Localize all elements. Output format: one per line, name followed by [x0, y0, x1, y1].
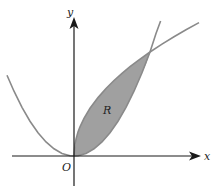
diagram-canvas: y x O R — [0, 0, 214, 193]
x-axis-label: x — [204, 150, 211, 163]
region-label: R — [102, 104, 111, 117]
y-axis-label: y — [66, 6, 74, 19]
origin-label: O — [62, 161, 71, 174]
region-r-fill — [74, 52, 150, 156]
